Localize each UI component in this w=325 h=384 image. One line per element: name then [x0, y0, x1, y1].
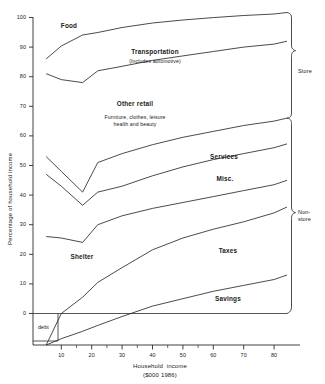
curve-transportation-top [46, 13, 287, 59]
y-axis-ticks [29, 18, 33, 314]
curve-misc-top [46, 144, 287, 205]
curve-savings-top [46, 275, 287, 345]
curve-shelter-top [46, 180, 287, 242]
chart-figure: 100 90 80 70 60 50 40 30 20 10 0 Percent… [0, 0, 325, 384]
curve-other-retail-top [46, 41, 287, 82]
store-brace [287, 13, 296, 119]
curve-taxes-top [46, 207, 287, 345]
nonstore-brace [287, 118, 296, 313]
x-axis-minor-ticks [77, 345, 199, 348]
chart-plot-area [0, 0, 325, 384]
curve-services-top [46, 118, 287, 192]
